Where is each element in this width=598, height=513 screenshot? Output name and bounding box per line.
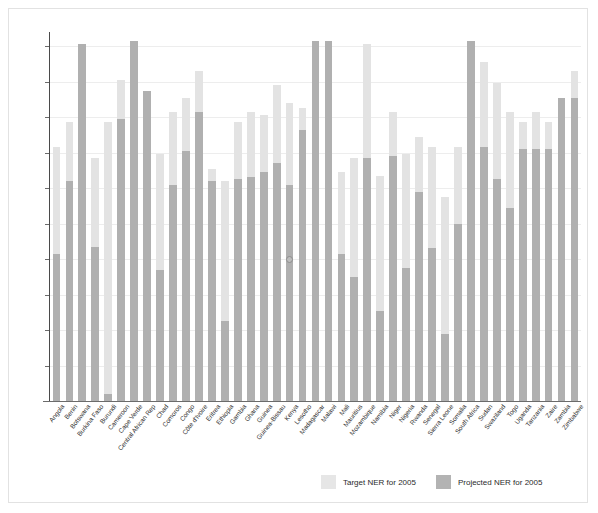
bar-projected-ner[interactable] [415,192,423,401]
bar-projected-ner[interactable] [66,181,74,401]
bar-projected-ner[interactable] [363,158,371,401]
bar-group[interactable] [322,32,335,401]
bar-projected-ner[interactable] [53,254,61,401]
bar-group[interactable] [50,32,63,401]
bar-projected-ner[interactable] [402,268,410,401]
bar-group[interactable] [516,32,529,401]
bar-group[interactable] [348,32,361,401]
legend-item[interactable]: Projected NER for 2005 [436,475,543,489]
bar-projected-ner[interactable] [571,98,579,401]
bar-group[interactable] [270,32,283,401]
bar-group[interactable] [244,32,257,401]
x-axis-label: Angola [48,403,66,423]
bar-projected-ner[interactable] [286,185,294,401]
bar-projected-ner[interactable] [299,130,307,401]
bar-group[interactable] [283,32,296,401]
bar-group[interactable] [115,32,128,401]
bar-projected-ner[interactable] [480,147,488,401]
bar-projected-ner[interactable] [350,277,358,401]
bar-projected-ner[interactable] [143,91,151,401]
bar-projected-ner[interactable] [221,321,229,401]
bar-group[interactable] [464,32,477,401]
chart-frame: 102030405060708090100 AngolaBeninBotswan… [8,8,588,503]
bar-group[interactable] [568,32,581,401]
bar-group[interactable] [218,32,231,401]
legend-label: Target NER for 2005 [343,478,416,487]
bar-group[interactable] [154,32,167,401]
bar-projected-ner[interactable] [247,177,255,401]
legend-swatch-projected [436,475,451,489]
bar-projected-ner[interactable] [519,149,527,401]
bar-projected-ner[interactable] [312,41,320,401]
bar-projected-ner[interactable] [273,163,281,401]
bar-group[interactable] [387,32,400,401]
bar-group[interactable] [439,32,452,401]
legend-swatch-target [321,475,336,489]
y-axis-tick-mark [45,224,49,225]
bar-group[interactable] [309,32,322,401]
bar-group[interactable] [76,32,89,401]
bar-projected-ner[interactable] [260,172,268,401]
y-axis-tick-mark [45,46,49,47]
legend-label: Projected NER for 2005 [458,478,543,487]
y-axis-tick-mark [45,153,49,154]
legend-item[interactable]: Target NER for 2005 [321,475,416,489]
bar-projected-ner[interactable] [91,247,99,401]
bar-projected-ner[interactable] [441,334,449,401]
bar-projected-ner[interactable] [78,44,86,401]
bar-projected-ner[interactable] [467,41,475,401]
y-axis-tick-mark [45,117,49,118]
data-point-marker [286,256,293,263]
bar-target-ner[interactable] [104,122,112,401]
y-axis-tick-mark [45,330,49,331]
bar-group[interactable] [529,32,542,401]
bar-group[interactable] [542,32,555,401]
bar-projected-ner[interactable] [558,98,566,401]
plot-area: 102030405060708090100 [49,32,581,401]
bar-projected-ner[interactable] [325,41,333,401]
y-axis-tick-mark [45,366,49,367]
bar-projected-ner[interactable] [169,185,177,401]
bar-projected-ner[interactable] [156,270,164,401]
bar-group[interactable] [374,32,387,401]
bar-projected-ner[interactable] [493,179,501,401]
bar-group[interactable] [477,32,490,401]
bar-group[interactable] [231,32,244,401]
bar-projected-ner[interactable] [130,41,138,401]
bar-projected-ner[interactable] [195,112,203,401]
bar-projected-ner[interactable] [182,151,190,401]
bar-group[interactable] [192,32,205,401]
bar-projected-ner[interactable] [376,311,384,401]
bar-projected-ner[interactable] [117,119,125,401]
bar-projected-ner[interactable] [104,394,112,401]
bar-projected-ner[interactable] [506,208,514,401]
bar-group[interactable] [257,32,270,401]
bar-group[interactable] [400,32,413,401]
bar-projected-ner[interactable] [532,149,540,401]
bar-projected-ner[interactable] [545,149,553,401]
bar-group[interactable] [102,32,115,401]
bar-group[interactable] [296,32,309,401]
bar-group[interactable] [555,32,568,401]
bar-projected-ner[interactable] [389,156,397,401]
bar-group[interactable] [89,32,102,401]
bar-group[interactable] [128,32,141,401]
bar-group[interactable] [413,32,426,401]
bar-group[interactable] [426,32,439,401]
bar-group[interactable] [335,32,348,401]
bar-group[interactable] [490,32,503,401]
bar-group[interactable] [205,32,218,401]
bar-projected-ner[interactable] [234,179,242,401]
bar-projected-ner[interactable] [338,254,346,401]
bar-projected-ner[interactable] [428,248,436,401]
bar-projected-ner[interactable] [208,181,216,401]
bar-group[interactable] [141,32,154,401]
y-axis-tick-mark [45,82,49,83]
bar-group[interactable] [361,32,374,401]
bar-group[interactable] [167,32,180,401]
bar-group[interactable] [180,32,193,401]
bar-group[interactable] [63,32,76,401]
bar-group[interactable] [451,32,464,401]
bar-group[interactable] [503,32,516,401]
bar-projected-ner[interactable] [454,224,462,401]
